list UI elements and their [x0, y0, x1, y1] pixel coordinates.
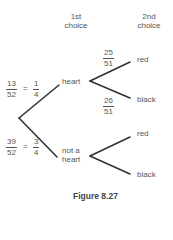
prob-heart-simp-num: 1 [33, 80, 39, 90]
branch-notheart-black [90, 156, 130, 174]
prob-heart-red-den: 51 [104, 59, 113, 68]
prob-heart-fraction: 13 52 [6, 80, 17, 99]
prob-not-heart-fraction: 39 52 [6, 138, 17, 157]
node-heart: heart [62, 77, 80, 86]
prob-heart-black-num: 26 [103, 97, 114, 107]
prob-not-heart-num: 39 [6, 138, 17, 148]
prob-heart-den: 52 [7, 90, 16, 99]
outcome-heart-black: black [137, 95, 156, 104]
prob-not-heart-simplified: 3 4 [33, 138, 39, 157]
branch-notheart-red [90, 137, 130, 156]
prob-heart-black: 26 51 [103, 97, 114, 116]
node-not-a-heart-line2: heart [62, 155, 80, 164]
outcome-notheart-red: red [137, 129, 149, 138]
node-not-a-heart: not a heart [62, 146, 80, 164]
prob-heart-red-num: 25 [103, 49, 114, 59]
prob-heart-red: 25 51 [103, 49, 114, 68]
prob-heart-simp-den: 4 [34, 90, 38, 99]
prob-not-heart-simp-den: 4 [34, 148, 38, 157]
prob-heart-black-den: 51 [104, 107, 113, 116]
outcome-notheart-black: black [137, 170, 156, 179]
prob-heart-equals: = [23, 84, 28, 93]
outcome-heart-red: red [137, 55, 149, 64]
prob-not-heart-simp-num: 3 [33, 138, 39, 148]
prob-heart-simplified: 1 4 [33, 80, 39, 99]
prob-heart-num: 13 [6, 80, 17, 90]
prob-not-heart-equals: = [23, 142, 28, 151]
prob-not-heart-den: 52 [7, 148, 16, 157]
node-not-a-heart-line1: not a [62, 146, 80, 155]
figure-caption: Figure 8.27 [73, 191, 118, 201]
